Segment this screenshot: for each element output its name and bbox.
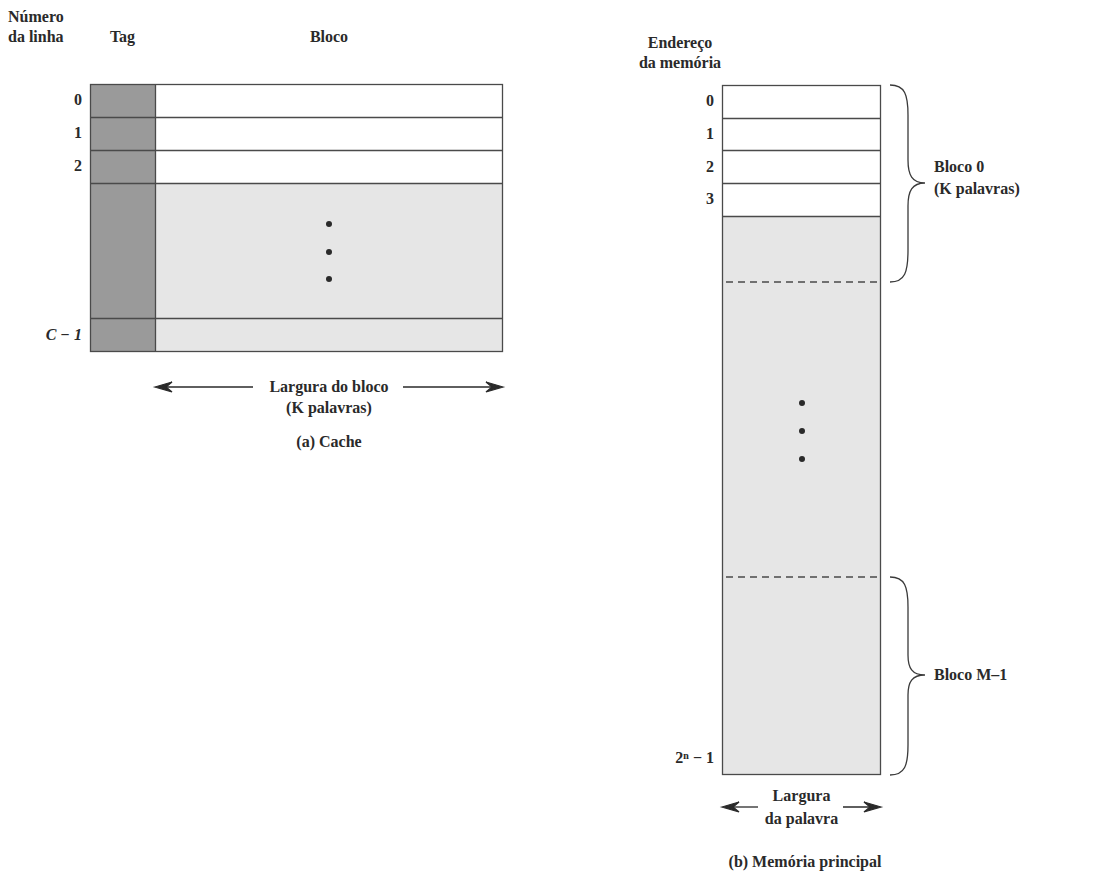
cache-row-label-1: 1: [40, 124, 82, 142]
memory-header-2: da memória: [615, 54, 745, 72]
block-0-label: Bloco 0: [934, 158, 984, 176]
block-0-sublabel: (K palavras): [934, 180, 1020, 198]
memory-caption: (b) Memória principal: [690, 853, 920, 871]
memory-row-label-1: 1: [680, 125, 714, 143]
block-m-1-label: Bloco M–1: [934, 666, 1007, 684]
memory-last-row-label: 2ⁿ − 1: [640, 749, 714, 767]
cache-last-row-label: C − 1: [20, 326, 82, 344]
memory-row-label-3: 3: [680, 190, 714, 208]
cache-caption: (a) Cache: [155, 433, 503, 451]
ellipsis-dot: [799, 428, 805, 434]
cache-row-label-0: 0: [40, 91, 82, 109]
cache-width-label: Largura do bloco: [155, 378, 503, 396]
cache-row-label-2: 2: [40, 157, 82, 175]
ellipsis-dot: [799, 456, 805, 462]
memory-row-label-0: 0: [680, 92, 714, 110]
memory-width-sublabel: da palavra: [722, 810, 881, 828]
ellipsis-dot: [326, 221, 332, 227]
memory-width-label: Largura: [722, 787, 881, 805]
memory-row-label-2: 2: [680, 158, 714, 176]
ellipsis-dot: [799, 400, 805, 406]
memory-header-1: Endereço: [615, 34, 745, 52]
ellipsis-dot: [326, 276, 332, 282]
cache-width-sublabel: (K palavras): [155, 399, 503, 417]
ellipsis-dot: [326, 249, 332, 255]
